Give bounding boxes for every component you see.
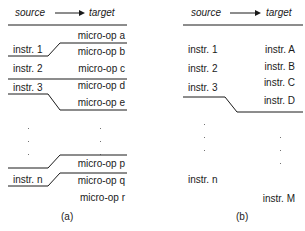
target-label: micro-op d (78, 80, 125, 92)
target-label: instr. D (264, 95, 295, 107)
target-label: micro-op r (80, 192, 125, 204)
target-label: micro-op c (78, 63, 125, 75)
target-label: micro-op p (78, 158, 125, 170)
panel-caption: (b) (236, 211, 248, 223)
source-label: instr. n (188, 174, 217, 186)
target-label: instr. B (264, 61, 295, 73)
source-label: instr. n (13, 174, 42, 186)
target-label: instr. M (263, 193, 295, 205)
source-label: instr. 2 (188, 63, 217, 75)
source-label: instr. 3 (13, 82, 42, 94)
source-label: instr. 1 (13, 44, 42, 56)
source-label: instr. 3 (188, 82, 217, 94)
target-label: instr. C (264, 77, 295, 89)
target-label: micro-op a (78, 30, 125, 42)
header-source-label: source (191, 7, 221, 19)
target-label: micro-op b (78, 46, 125, 58)
target-label: instr. A (265, 44, 295, 56)
source-label: instr. 2 (13, 63, 42, 75)
source-label: instr. 1 (188, 44, 217, 56)
target-label: micro-op q (78, 175, 125, 187)
panel-caption: (a) (61, 211, 73, 223)
header-source-label: source (15, 7, 45, 19)
header-target-label: target (89, 7, 115, 19)
header-target-label: target (266, 7, 292, 19)
diagram-lines (0, 0, 305, 231)
target-label: micro-op e (78, 97, 125, 109)
